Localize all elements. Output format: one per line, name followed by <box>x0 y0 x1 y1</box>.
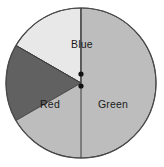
pie-label-green: Green <box>98 98 128 110</box>
pie-chart-svg: Blue Red Green <box>0 0 164 167</box>
pie-chart-container: Blue Red Green <box>0 0 164 167</box>
pie-label-red: Red <box>40 98 60 110</box>
upper-center-dot-icon <box>78 71 83 76</box>
lower-center-dot-icon <box>78 83 83 88</box>
pie-label-blue: Blue <box>71 38 93 50</box>
